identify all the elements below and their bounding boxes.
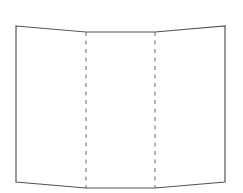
- trifold-diagram: [0, 0, 243, 193]
- paper-outline: [16, 26, 225, 188]
- trifold-svg: [0, 0, 243, 193]
